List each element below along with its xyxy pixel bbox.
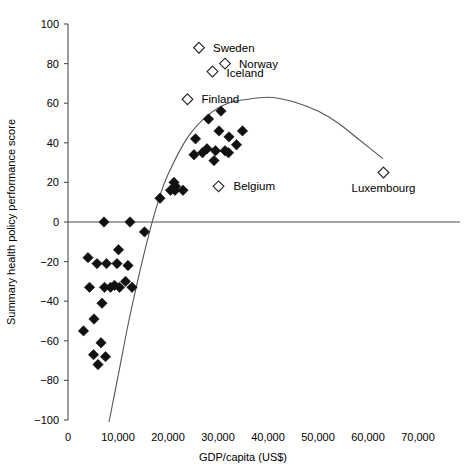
data-point-marker — [123, 260, 133, 270]
y-tick-label: −80 — [40, 374, 59, 386]
labeled-data-point-marker — [194, 42, 205, 53]
y-tick-label: −20 — [40, 256, 59, 268]
data-point-marker — [84, 282, 94, 292]
data-point-marker — [209, 155, 219, 165]
data-point-marker — [112, 258, 122, 268]
labeled-data-point-marker — [213, 181, 224, 192]
chart-container: −100−80−60−40−20020406080100 010,00020,0… — [0, 0, 468, 476]
data-point-marker — [216, 106, 226, 116]
y-tick-label: −60 — [40, 335, 59, 347]
y-tick-label: 40 — [47, 137, 59, 149]
data-point-marker — [224, 132, 234, 142]
data-point-marker — [88, 349, 98, 359]
data-point-marker — [101, 258, 111, 268]
y-tick-labels: −100−80−60−40−20020406080100 — [34, 18, 59, 426]
data-point-marker — [210, 146, 220, 156]
data-point-marker — [113, 245, 123, 255]
data-point-label: Belgium — [234, 180, 276, 192]
y-tick-label: 80 — [47, 58, 59, 70]
regression-curve — [109, 97, 383, 422]
data-point-marker — [237, 126, 247, 136]
scatter-plot: −100−80−60−40−20020406080100 010,00020,0… — [0, 0, 468, 476]
data-point-label: Luxembourg — [352, 182, 416, 194]
data-point-marker — [190, 134, 200, 144]
axes-group — [64, 24, 460, 420]
data-point-marker — [189, 149, 199, 159]
x-tick-label: 10,000 — [101, 431, 135, 443]
data-point-marker — [96, 338, 106, 348]
data-point-marker — [97, 298, 107, 308]
labeled-data-point-marker — [207, 66, 218, 77]
data-point-label: Sweden — [213, 42, 255, 54]
x-tick-label: 70,000 — [401, 431, 435, 443]
y-axis-title: Summary health policy performance score — [5, 119, 17, 325]
data-point-marker — [83, 252, 93, 262]
fit-curve-group — [109, 97, 383, 422]
y-tick-label: 60 — [47, 97, 59, 109]
x-tick-label: 20,000 — [151, 431, 185, 443]
x-tick-label: 40,000 — [251, 431, 285, 443]
x-axis-title: GDP/capita (US$) — [199, 451, 287, 463]
labeled-data-point-marker — [378, 167, 389, 178]
data-point-marker — [203, 114, 213, 124]
x-tick-label: 0 — [65, 431, 71, 443]
data-point-marker — [93, 359, 103, 369]
labeled-data-points: SwedenNorwayIcelandFinlandBelgiumLuxembo… — [182, 42, 415, 194]
data-point-label: Iceland — [227, 67, 264, 79]
data-point-marker — [125, 217, 135, 227]
data-point-marker — [78, 326, 88, 336]
data-point-marker — [92, 258, 102, 268]
x-tick-label: 30,000 — [201, 431, 235, 443]
data-point-marker — [155, 193, 165, 203]
labeled-data-point-marker — [182, 94, 193, 105]
data-point-marker — [89, 314, 99, 324]
y-tick-label: 100 — [41, 18, 59, 30]
unlabeled-data-points — [78, 106, 247, 370]
y-tick-label: −100 — [34, 414, 59, 426]
x-tick-label: 60,000 — [351, 431, 385, 443]
data-point-marker — [100, 351, 110, 361]
x-tick-labels: 010,00020,00030,00040,00050,00060,00070,… — [65, 431, 435, 443]
data-point-marker — [99, 217, 109, 227]
y-tick-label: 20 — [47, 176, 59, 188]
data-point-marker — [231, 140, 241, 150]
x-tick-label: 50,000 — [301, 431, 335, 443]
y-tick-label: −40 — [40, 295, 59, 307]
y-tick-label: 0 — [53, 216, 59, 228]
data-point-label: Finland — [202, 93, 240, 105]
data-point-marker — [214, 126, 224, 136]
